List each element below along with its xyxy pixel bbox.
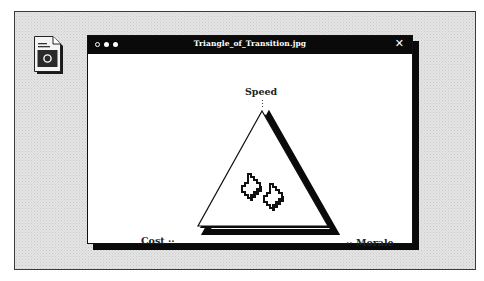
triangle-diagram [88,54,414,244]
cost-label: Cost ·· [141,235,175,246]
cost-leader: ·· [168,235,175,246]
desktop-file-icon[interactable] [34,36,62,73]
morale-leader: ·· [346,237,353,248]
triangle-shape [198,111,328,226]
image-viewer-window: Triangle_of_Transition.jpg ✕ [87,35,413,244]
desktop: Triangle_of_Transition.jpg ✕ [14,11,476,270]
cost-text: Cost [141,235,165,246]
window-title: Triangle_of_Transition.jpg [88,39,412,48]
image-document-icon [34,36,64,75]
speed-label: Speed [245,86,277,97]
morale-label: ·· Morale [346,237,394,248]
image-content: Speed Cost ·· ·· Morale [88,54,412,243]
morale-text: Morale [356,237,394,248]
speed-leader [262,100,263,107]
window-titlebar[interactable]: Triangle_of_Transition.jpg ✕ [88,36,412,54]
close-button[interactable]: ✕ [395,37,404,51]
